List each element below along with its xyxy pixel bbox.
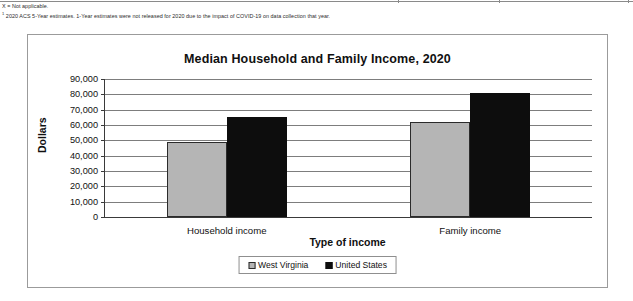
y-axis-tick-mark (101, 202, 105, 203)
y-axis-tick-label: 50,000 (70, 135, 98, 145)
footnote-acs-estimates: 1 2020 ACS 5-Year estimates. 1-Year esti… (2, 10, 622, 20)
table-column-divider (628, 0, 629, 3)
y-axis-tick-label: 0 (93, 212, 98, 222)
y-axis-tick-label: 30,000 (70, 166, 98, 176)
bar-group: Family income (410, 79, 530, 217)
y-axis-tick-mark (101, 217, 105, 218)
y-axis-tick-label: 60,000 (70, 120, 98, 130)
plot-area: 010,00020,00030,00040,00050,00060,00070,… (104, 79, 592, 218)
legend-item-united-states[interactable]: United States (325, 260, 387, 270)
y-axis-tick-label: 80,000 (70, 89, 98, 99)
bar-united-states-family-income[interactable] (470, 93, 530, 217)
footnote-not-applicable: X = Not applicable. (2, 3, 622, 10)
y-axis-tick-label: 10,000 (70, 197, 98, 207)
y-axis-tick-label: 40,000 (70, 151, 98, 161)
x-axis-category-label: Household income (167, 225, 287, 236)
legend-swatch-icon-west-virginia (248, 262, 255, 269)
y-axis-tick-mark (101, 79, 105, 80)
table-bottom-rule (0, 1, 633, 2)
y-axis-tick-mark (101, 171, 105, 172)
y-axis-tick-mark (101, 156, 105, 157)
legend-label-united-states: United States (335, 260, 387, 270)
legend-label-west-virginia: West Virginia (258, 260, 308, 270)
bar-west-virginia-household-income[interactable] (167, 142, 227, 217)
y-axis-tick-mark (101, 186, 105, 187)
y-axis-tick-mark (101, 94, 105, 95)
chart-container: Median Household and Family Income, 2020… (27, 34, 608, 288)
legend-item-west-virginia[interactable]: West Virginia (248, 260, 308, 270)
y-axis-title: Dollars (36, 117, 48, 153)
bar-united-states-household-income[interactable] (227, 117, 287, 217)
bar-group: Household income (167, 79, 287, 217)
y-axis-tick-mark (101, 140, 105, 141)
y-axis-tick-label: 70,000 (70, 105, 98, 115)
footnote-marker: 1 (2, 11, 4, 16)
legend-swatch-icon-united-states (325, 262, 332, 269)
y-axis-tick-label: 20,000 (70, 181, 98, 191)
footnote-acs-estimates-text: 2020 ACS 5-Year estimates. 1-Year estima… (6, 13, 330, 19)
y-axis-tick-label: 90,000 (70, 74, 98, 84)
x-axis-category-label: Family income (410, 225, 530, 236)
footnotes: X = Not applicable. 1 2020 ACS 5-Year es… (2, 3, 622, 20)
y-axis-tick-mark (101, 110, 105, 111)
y-axis-tick-mark (101, 125, 105, 126)
chart-title: Median Household and Family Income, 2020 (28, 52, 607, 66)
chart-legend: West Virginia United States (238, 256, 397, 274)
bar-west-virginia-family-income[interactable] (410, 122, 470, 217)
x-axis-title: Type of income (104, 236, 591, 248)
